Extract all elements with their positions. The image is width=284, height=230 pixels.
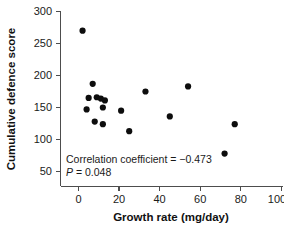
data-point: [90, 81, 96, 87]
data-point: [118, 108, 124, 114]
y-tick-label: 50: [40, 165, 52, 177]
y-tick-label: 300: [34, 5, 52, 17]
data-point: [79, 28, 85, 34]
data-point: [86, 95, 92, 101]
y-tick-label: 150: [34, 101, 52, 113]
data-point: [100, 104, 106, 110]
y-tick-label: 200: [34, 69, 52, 81]
data-point: [84, 106, 90, 112]
data-point: [92, 118, 98, 124]
x-axis-title: Growth rate (mg/day): [113, 211, 229, 223]
data-point: [221, 150, 227, 156]
x-tick-label: 20: [113, 193, 125, 205]
data-point: [185, 83, 191, 89]
x-tick-label: 60: [194, 193, 206, 205]
figure-container: 300 250 200 150 100 50 0 20 40 60 80 100…: [0, 0, 284, 230]
correlation-coefficient-annotation: Correlation coefficient = −0.473: [66, 153, 212, 165]
data-point: [167, 113, 173, 119]
data-point: [102, 97, 108, 103]
data-point: [126, 128, 132, 134]
y-tick-label: 250: [34, 37, 52, 49]
x-tick-label: 80: [235, 193, 247, 205]
p-value-annotation: P = 0.048: [66, 166, 111, 178]
data-point: [100, 121, 106, 127]
data-point: [142, 88, 148, 94]
x-tick-label: 100: [268, 193, 284, 205]
p-symbol: P: [66, 166, 73, 178]
x-tick-label: 40: [153, 193, 165, 205]
data-point: [232, 121, 238, 127]
scatter-plot: 300 250 200 150 100 50 0 20 40 60 80 100…: [0, 0, 284, 230]
y-tick-label: 100: [34, 133, 52, 145]
y-axis-title: Cumulative defence score: [5, 28, 17, 171]
p-value-text: = 0.048: [73, 166, 111, 178]
x-tick-label: 0: [75, 193, 81, 205]
